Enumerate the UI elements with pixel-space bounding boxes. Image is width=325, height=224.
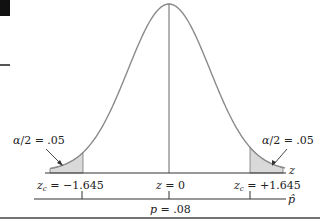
z-axis-label: z xyxy=(288,164,295,177)
bell-curve xyxy=(50,4,285,169)
p-center-label: p = .08 xyxy=(150,203,191,216)
left-tail-label: α/2 = .05 xyxy=(13,134,65,147)
left-critical-label: zc = −1.645 xyxy=(36,179,104,193)
phat-axis-label: p̂ xyxy=(288,193,295,206)
normal-distribution-diagram: z p̂ α/2 = .05 α/2 = .05 zc = −1.645 z =… xyxy=(0,0,325,224)
left-tail-shade xyxy=(50,152,83,173)
right-critical-label: zc = +1.645 xyxy=(233,179,301,193)
right-tail-arrow xyxy=(274,149,287,164)
right-tail-label: α/2 = .05 xyxy=(262,134,314,147)
center-z-label: z = 0 xyxy=(155,179,185,192)
right-tail-shade xyxy=(250,147,283,173)
